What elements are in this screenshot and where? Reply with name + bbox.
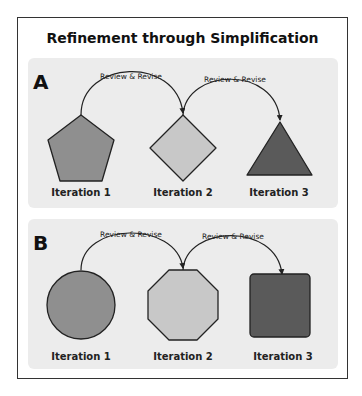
arrow-a-2-label: Review & Revise <box>204 75 266 84</box>
pentagon-shape <box>48 115 114 181</box>
iteration-label-b-3: Iteration 3 <box>253 351 313 362</box>
triangle-shape <box>247 122 312 175</box>
arrow-b-2 <box>183 236 282 274</box>
arrow-b-1-label: Review & Revise <box>100 230 162 239</box>
iteration-label-b-1: Iteration 1 <box>51 351 111 362</box>
diagram-canvas: Review & Revise Review & Revise Iteratio… <box>0 0 362 396</box>
octagon-shape <box>148 270 218 340</box>
iteration-label-a-2: Iteration 2 <box>153 187 213 198</box>
arrow-b-2-label: Review & Revise <box>202 232 264 241</box>
circle-shape <box>47 271 115 339</box>
arrow-a-1-label: Review & Revise <box>100 72 162 81</box>
square-shape <box>250 274 310 337</box>
iteration-label-b-2: Iteration 2 <box>153 351 213 362</box>
arrow-a-2 <box>183 79 280 120</box>
iteration-label-a-1: Iteration 1 <box>51 187 111 198</box>
iteration-label-a-3: Iteration 3 <box>249 187 309 198</box>
diamond-shape <box>150 115 216 181</box>
